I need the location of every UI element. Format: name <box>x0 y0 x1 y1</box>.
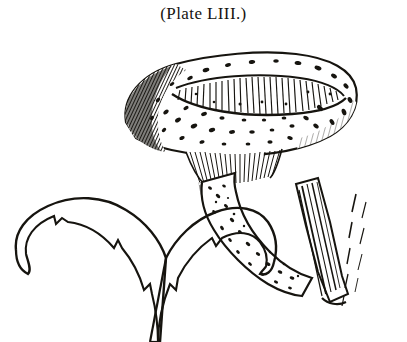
plate-figure: (Plate LIII.) <box>0 0 407 342</box>
mushroom-cap <box>118 52 360 166</box>
stem-outline <box>202 173 313 296</box>
mushroom-illustration <box>0 26 407 342</box>
plate-caption: (Plate LIII.) <box>0 4 407 24</box>
illustration-canvas <box>0 26 407 342</box>
gill-section-left <box>16 198 166 342</box>
